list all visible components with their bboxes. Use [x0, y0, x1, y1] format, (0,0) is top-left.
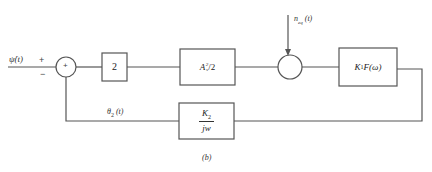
gain-block-label: 2	[102, 53, 127, 81]
noise-summing-junction	[278, 55, 302, 79]
block-diagram-lines	[0, 0, 432, 172]
noise-label: neq (t)	[294, 15, 312, 25]
figure-caption: (b)	[202, 154, 211, 162]
plus-sign: +	[39, 56, 44, 65]
input-label: ψ̇(t)	[9, 55, 23, 64]
amplitude-block-label: A2s/2	[180, 49, 235, 85]
minus-sign: −	[40, 70, 45, 79]
junction-plus-symbol: +	[63, 62, 68, 70]
feedback-signal-label: θ2 (t)	[107, 108, 124, 118]
filter-block-label: K1 F(ω)	[339, 48, 397, 86]
integrator-block-label: K2 jw	[179, 103, 234, 139]
